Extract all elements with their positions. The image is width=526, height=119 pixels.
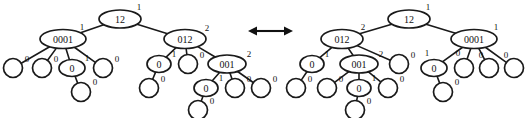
edge-label: 0 xyxy=(200,50,205,60)
node-circle xyxy=(72,83,91,102)
node-label: 0 xyxy=(157,59,162,70)
node-label: 001 xyxy=(220,59,235,70)
node-label: 0001 xyxy=(53,34,73,45)
node-circle xyxy=(4,59,23,78)
node-label: 001 xyxy=(352,59,367,70)
node-circle xyxy=(33,59,52,78)
node-label: 12 xyxy=(404,14,414,25)
node-circle xyxy=(252,79,271,98)
tree-node-leaf xyxy=(505,59,524,78)
node-circle xyxy=(140,79,159,98)
edge-label: 1 xyxy=(325,49,330,59)
node-label: 0 xyxy=(310,59,315,70)
edge-label: 1 xyxy=(426,2,431,12)
tree-node-leaf xyxy=(318,79,337,98)
tree-node-leaf xyxy=(140,79,159,98)
edge-label: 0 xyxy=(273,74,278,84)
edge-label: 0 xyxy=(247,74,252,84)
tree-node-leaf xyxy=(455,59,474,78)
edge-label: 0 xyxy=(455,77,460,87)
edge-label: 2 xyxy=(205,23,210,33)
node-label: 012 xyxy=(335,34,350,45)
node-circle xyxy=(189,101,208,119)
node-circle xyxy=(390,55,409,74)
tree-edge xyxy=(348,48,353,55)
node-label: 12 xyxy=(115,14,125,25)
node-circle xyxy=(346,101,365,119)
tree-edge xyxy=(301,72,307,80)
edge-label: 0 xyxy=(411,50,416,60)
tree-node-leaf xyxy=(379,79,398,98)
node-label: 0 xyxy=(204,83,209,94)
tree-node-labeled: 12 xyxy=(99,10,141,28)
edge-label: 1 xyxy=(80,22,85,32)
tree-node-labeled: 0 xyxy=(147,56,171,73)
node-circle xyxy=(480,59,499,78)
tree-node-labeled: 0 xyxy=(194,80,218,97)
tree-edge xyxy=(137,24,168,33)
tree-edge xyxy=(75,76,78,83)
tree-node-leaf xyxy=(94,59,113,78)
node-label: 0001 xyxy=(464,34,484,45)
tree-edge xyxy=(426,24,455,33)
edge-label: 0 xyxy=(25,54,30,64)
node-circle xyxy=(179,55,198,74)
tree-node-labeled: 0001 xyxy=(451,30,497,49)
node-circle xyxy=(505,59,524,78)
relation-arrow xyxy=(248,26,293,35)
edge-label: 1 xyxy=(372,73,377,83)
edge-label: 1 xyxy=(494,22,499,32)
edge-label: 1 xyxy=(172,49,177,59)
edge-label: 0 xyxy=(54,54,59,64)
node-label: 0 xyxy=(432,63,437,74)
node-circle xyxy=(318,79,337,98)
node-circle xyxy=(226,79,245,98)
tree-node-leaf xyxy=(287,79,306,98)
edge-label: 0 xyxy=(400,74,405,84)
tree-node-labeled: 001 xyxy=(340,55,378,73)
tree-node-leaf xyxy=(72,83,91,102)
edge-label: 0 xyxy=(479,50,484,60)
edge-label: 0 xyxy=(161,74,166,84)
arrow-head-right-icon xyxy=(284,26,293,35)
edge-label: 0 xyxy=(456,48,461,58)
edge-label: 0 xyxy=(367,96,372,106)
tree-node-leaf xyxy=(434,83,453,102)
tree-figure: 120001012000010120120001000100 112001001… xyxy=(0,0,526,118)
tree-node-labeled: 0 xyxy=(421,60,447,77)
tree-node-leaf xyxy=(33,59,52,78)
tree-node-labeled: 0 xyxy=(347,80,371,97)
node-circle xyxy=(379,79,398,98)
tree-edge xyxy=(186,48,187,54)
tree-node-labeled: 0 xyxy=(59,60,85,77)
tree-node-labeled: 012 xyxy=(164,30,206,49)
edge-label: 2 xyxy=(361,22,366,32)
node-label: 0 xyxy=(357,83,362,94)
node-label: 012 xyxy=(178,34,193,45)
tree-node-leaf xyxy=(179,55,198,74)
tree-node-leaf xyxy=(252,79,271,98)
node-label: 0 xyxy=(70,63,75,74)
edge-label: 0 xyxy=(210,96,215,106)
edge-label: 1 xyxy=(219,73,224,83)
tree-edge xyxy=(66,48,69,59)
tree-node-labeled: 012 xyxy=(321,30,363,49)
tree-node-leaf xyxy=(226,79,245,98)
edge-label: 0 xyxy=(93,77,98,87)
tree-diagram-canvas: 120001012000010120120001000100 112001001… xyxy=(0,0,526,118)
edge-label: 1 xyxy=(425,48,430,58)
node-circle xyxy=(287,79,306,98)
node-circle xyxy=(94,59,113,78)
edge-label: 0 xyxy=(504,50,509,60)
edge-label: 0 xyxy=(308,74,313,84)
tree-node-leaf xyxy=(480,59,499,78)
edge-label: 2 xyxy=(379,49,384,59)
tree-edge xyxy=(437,76,440,83)
tree-edge xyxy=(230,73,232,79)
tree-edge xyxy=(467,48,471,59)
node-circle xyxy=(434,83,453,102)
tree-node-leaf xyxy=(390,55,409,74)
tree-node-labeled: 0 xyxy=(300,56,324,73)
edge-label: 0 xyxy=(339,74,344,84)
tree-node-labeled: 12 xyxy=(388,10,430,28)
